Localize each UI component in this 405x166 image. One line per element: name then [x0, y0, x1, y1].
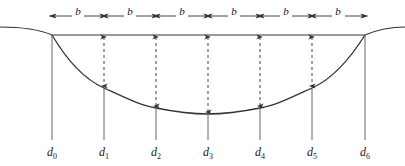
figure-canvas: b b b b b b d0 d1 d2 d3 d4 d5 d6: [0, 0, 405, 166]
depth-label-d5-sub: 5: [313, 152, 317, 161]
span-label-b4: b: [231, 6, 237, 17]
depth-label-d6-sub: 6: [366, 152, 370, 161]
depth-label-d2-sub: 2: [157, 152, 161, 161]
station-leader-lines: [52, 35, 365, 140]
depth-label-d4-sub: 4: [261, 152, 265, 161]
depth-label-d6: d6: [360, 146, 370, 161]
diagram-svg: [0, 0, 405, 166]
span-label-b5: b: [283, 6, 289, 17]
depth-label-d3-sub: 3: [209, 152, 213, 161]
depth-label-d3: d3: [203, 146, 213, 161]
span-label-b2: b: [127, 6, 133, 17]
ground-line-right: [365, 27, 405, 35]
span-label-b1: b: [75, 6, 81, 17]
depth-label-d1: d1: [99, 146, 109, 161]
span-label-b6: b: [335, 6, 341, 17]
depth-label-d0-sub: 0: [53, 152, 57, 161]
depth-label-d0: d0: [47, 146, 57, 161]
depth-label-d5: d5: [307, 146, 317, 161]
settlement-curve: [52, 35, 365, 114]
span-label-b3: b: [179, 6, 185, 17]
depth-arrows: [104, 37, 312, 112]
depth-label-d1-sub: 1: [105, 152, 109, 161]
ground-line-left: [0, 27, 52, 35]
depth-label-d4: d4: [255, 146, 265, 161]
depth-label-d2: d2: [151, 146, 161, 161]
